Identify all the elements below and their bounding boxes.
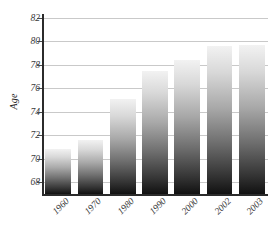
y-axis-tick-label: 76 xyxy=(2,83,40,93)
bars-layer xyxy=(42,18,268,194)
bar-chart: Age 6870727476788082 1960197019801990200… xyxy=(0,0,275,246)
y-axis-tick-label: 78 xyxy=(2,60,40,70)
y-axis-tick-label: 72 xyxy=(2,130,40,140)
bar xyxy=(45,149,71,194)
x-axis-tick-label: 1960 xyxy=(42,196,72,226)
x-axis-tick-label: 2002 xyxy=(203,196,233,226)
x-axis-tick-label: 2000 xyxy=(171,196,201,226)
y-axis-tick-label: 82 xyxy=(2,13,40,23)
y-axis-tick-label: 68 xyxy=(2,177,40,187)
y-axis-tick-label: 70 xyxy=(2,154,40,164)
y-axis-tick-labels: 6870727476788082 xyxy=(0,0,40,246)
bar xyxy=(239,45,265,194)
x-axis-tick-label: 1980 xyxy=(106,196,136,226)
y-axis-line xyxy=(42,14,44,194)
y-axis-tick-label: 80 xyxy=(2,36,40,46)
x-axis-tick-labels: 1960197019801990200020022003 xyxy=(42,196,274,246)
x-axis-tick-label: 1990 xyxy=(138,196,168,226)
plot-area xyxy=(42,18,268,194)
bar xyxy=(142,71,168,194)
bar xyxy=(110,99,136,194)
x-axis-tick-label: 1970 xyxy=(74,196,104,226)
x-axis-tick-label: 2003 xyxy=(235,196,265,226)
bar xyxy=(174,60,200,194)
bar xyxy=(207,46,233,194)
bar xyxy=(78,140,104,194)
y-axis-tick-label: 74 xyxy=(2,107,40,117)
